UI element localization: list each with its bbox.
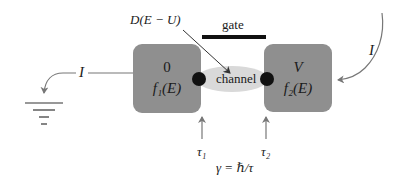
- left-contact-distribution: f₁(E): [133, 80, 201, 97]
- broadening-formula: γ = ℏ/τ: [216, 160, 253, 176]
- channel-label: channel: [216, 71, 256, 87]
- right-contact: V f₂(E): [264, 44, 332, 112]
- right-contact-dot: [260, 72, 274, 86]
- gate-bar: [202, 35, 266, 39]
- left-contact-potential: 0: [133, 59, 201, 76]
- current-left-label: I: [79, 64, 84, 81]
- right-contact-potential: V: [264, 59, 332, 76]
- left-contact-dot: [192, 72, 206, 86]
- right-contact-distribution: f₂(E): [264, 80, 332, 97]
- left-current-arrow: [44, 73, 133, 93]
- tau2-label: τ₂: [261, 144, 270, 160]
- current-right-label: I: [369, 42, 374, 59]
- ground-icon: [25, 103, 63, 124]
- left-contact: 0 f₁(E): [133, 44, 201, 113]
- dos-label: D(E − U): [130, 12, 181, 28]
- gate-label: gate: [222, 17, 244, 33]
- tau1-label: τ₁: [197, 144, 206, 160]
- right-current-arrow: [338, 13, 383, 80]
